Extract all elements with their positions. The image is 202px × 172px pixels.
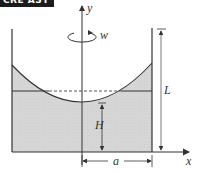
diagram-canvas: CRE ASY: [0, 0, 202, 172]
height-L-label: L: [164, 84, 171, 96]
y-axis-label: y: [87, 2, 92, 14]
height-H-label: H: [95, 119, 104, 131]
rotation-label: w: [100, 29, 108, 41]
figure-svg: [0, 0, 202, 172]
radius-a-label: a: [113, 155, 119, 167]
x-axis-label: x: [186, 155, 191, 167]
